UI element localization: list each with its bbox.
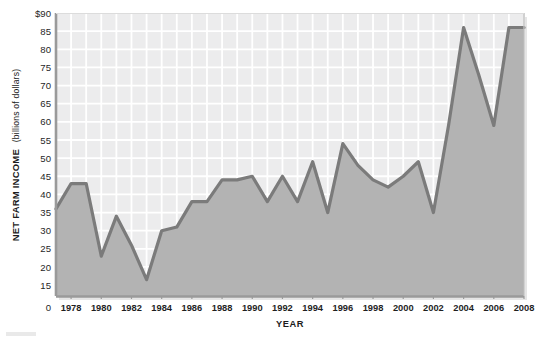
x-axis-tick-label: 1984 bbox=[151, 303, 173, 313]
x-axis-tick-label: 2006 bbox=[483, 303, 504, 313]
y-axis-title-main: NET FARM INCOME bbox=[10, 149, 21, 241]
chart-container: $90858075706560555045403530252015 0 1978… bbox=[0, 0, 543, 342]
x-axis-tick-label: 2004 bbox=[453, 303, 475, 313]
x-axis-tick-label: 1986 bbox=[182, 303, 203, 313]
net-farm-income-area-chart: $90858075706560555045403530252015 0 1978… bbox=[0, 0, 543, 342]
y-axis-tick-label: 45 bbox=[40, 171, 51, 182]
scan-artifact bbox=[6, 332, 36, 336]
y-axis-tick-label: 80 bbox=[40, 44, 51, 55]
x-axis-tick-label: 2000 bbox=[393, 303, 414, 313]
y-axis-tick-label: 30 bbox=[40, 225, 51, 236]
y-axis-tick-label: 50 bbox=[40, 153, 51, 164]
y-axis-tick-label: 85 bbox=[40, 26, 51, 37]
x-axis-tick-label: 1996 bbox=[332, 303, 353, 313]
x-axis-tick-label: 1978 bbox=[61, 303, 82, 313]
x-axis-tick-label: 1992 bbox=[272, 303, 293, 313]
y-axis-tick-label: 55 bbox=[40, 135, 51, 146]
y-axis-tick-label: 25 bbox=[40, 243, 51, 254]
y-axis-title-units: (billions of dollars) bbox=[11, 69, 21, 142]
y-axis-tick-label: 15 bbox=[40, 280, 51, 291]
y-axis-tick-label: 70 bbox=[40, 80, 51, 91]
x-axis-tick-label: 1994 bbox=[302, 303, 324, 313]
y-axis-tick-label: 75 bbox=[40, 62, 51, 73]
x-axis-tick-label: 1982 bbox=[121, 303, 142, 313]
y-axis-tick-label: $90 bbox=[35, 8, 51, 19]
y-axis-tick-label: 60 bbox=[40, 116, 51, 127]
y-axis-origin-label: 0 bbox=[46, 302, 51, 313]
y-axis-tick-label: 35 bbox=[40, 207, 51, 218]
y-axis-tick-label: 20 bbox=[40, 262, 51, 273]
y-axis-title: NET FARM INCOME (billions of dollars) bbox=[10, 69, 21, 242]
x-axis-tick-label: 1980 bbox=[91, 303, 112, 313]
x-axis-title: YEAR bbox=[276, 319, 304, 329]
y-axis-title-group: NET FARM INCOME (billions of dollars) bbox=[10, 69, 21, 242]
x-axis-tick-label: 2002 bbox=[423, 303, 444, 313]
x-axis-tick-label: 1990 bbox=[242, 303, 263, 313]
x-axis-tick-label: 2008 bbox=[514, 303, 535, 313]
y-axis-tick-label: 65 bbox=[40, 98, 51, 109]
x-axis-tick-label: 1998 bbox=[363, 303, 384, 313]
x-axis-tick-label: 1988 bbox=[212, 303, 233, 313]
y-axis-tick-label: 40 bbox=[40, 189, 51, 200]
